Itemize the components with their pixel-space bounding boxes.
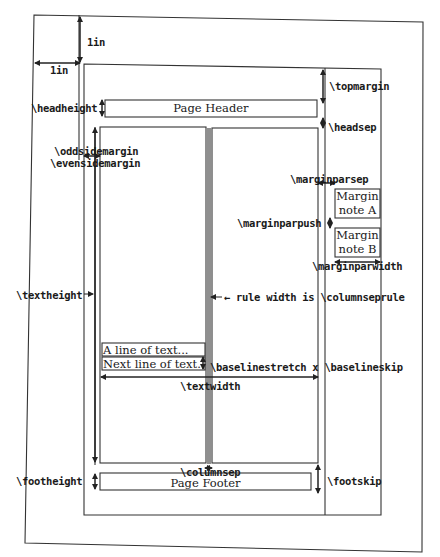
offset-horizontal-label: 1in (50, 65, 68, 76)
columnseprule-label: ← rule width is \columnseprule (224, 292, 405, 303)
headheight-label: \headheight (31, 103, 97, 114)
textheight-label: \textheight (16, 290, 82, 301)
margin-note-a-line1: Margin (335, 191, 380, 203)
textwidth-label: \textwidth (180, 381, 240, 392)
margin-note-a-line2: note A (335, 205, 380, 217)
evensidemargin-label: \evensidemargin (50, 158, 140, 169)
left-column-box (100, 127, 206, 463)
text-line-1: A line of text... (103, 345, 189, 357)
text-line-2: Next line of text.. (103, 359, 205, 371)
marginparwidth-label: \marginparwidth (312, 261, 402, 272)
offset-vertical-label: 1in (87, 37, 105, 48)
baselineskip-label: \baselinestretch x \baselineskip (210, 362, 403, 373)
marginparsep-label: \marginparsep (290, 174, 368, 185)
marginparpush-label: \marginparpush (237, 218, 321, 229)
headsep-label: \headsep (328, 122, 376, 133)
page-header-text: Page Header (105, 103, 317, 115)
footheight-label: \footheight (16, 476, 82, 487)
margin-note-b-line1: Margin (335, 230, 380, 242)
margin-note-b-line2: note B (335, 244, 380, 256)
topmargin-label: \topmargin (329, 81, 389, 92)
footskip-label: \footskip (327, 476, 381, 487)
page-footer-text: Page Footer (100, 478, 311, 490)
page-layout-diagram: 1in 1in \topmargin \headheight Page Head… (0, 0, 440, 557)
oddsidemargin-label: \oddsidemargin (54, 146, 138, 157)
